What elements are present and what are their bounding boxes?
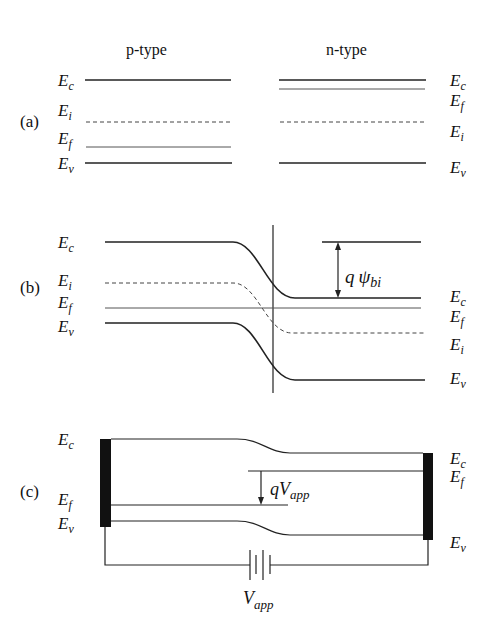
battery-label: Vapp [243, 588, 274, 612]
battery-icon [250, 550, 270, 580]
panel-b: (b) qψbi Ec Ei Ef Ev Ec Ef Ei Ev [20, 225, 466, 393]
label-b-left-ec: Ec [57, 233, 74, 255]
arrow-head-up [335, 242, 341, 250]
arrow-head-down [335, 290, 341, 298]
label-b-right-ef: Ef [449, 307, 465, 329]
builtin-potential-label: qψbi [345, 266, 381, 290]
b-valence-band [105, 323, 425, 380]
c-valence-band [111, 521, 423, 535]
label-c-right-ev: Ev [449, 533, 466, 555]
label-p-ei: Ei [57, 101, 72, 123]
label-p-ec: Ec [57, 71, 74, 93]
panel-a-label: (a) [20, 112, 39, 131]
label-n-ev: Ev [449, 158, 466, 180]
panel-b-label: (b) [20, 278, 40, 297]
label-b-right-ec: Ec [449, 287, 466, 309]
panel-c-label: (c) [20, 482, 39, 501]
left-metal-contact [100, 439, 111, 527]
circuit-wire-right [270, 540, 428, 565]
label-n-ei: Ei [449, 122, 464, 144]
c-conduction-band [111, 439, 423, 453]
arrow-head-down [258, 497, 264, 505]
label-b-left-ev: Ev [57, 317, 74, 339]
panel-a: p-type n-type (a) Ec Ei Ef Ev Ec Ef Ei E… [20, 41, 466, 180]
label-b-left-ef: Ef [57, 293, 73, 315]
circuit-wire-left [105, 527, 250, 565]
n-type-header: n-type [326, 41, 367, 59]
label-b-right-ev: Ev [449, 369, 466, 391]
label-c-left-ev: Ev [57, 514, 74, 536]
label-p-ef: Ef [57, 129, 73, 151]
label-p-ev: Ev [57, 154, 74, 176]
label-c-left-ef: Ef [57, 490, 73, 512]
label-b-left-ei: Ei [57, 271, 72, 293]
panel-c: (c) qVapp Vapp Ec Ef Ev Ec [20, 430, 466, 612]
applied-voltage-label: qVapp [270, 479, 310, 502]
label-n-ec: Ec [449, 71, 466, 93]
p-type-header: p-type [126, 41, 167, 59]
label-b-right-ei: Ei [449, 335, 464, 357]
right-metal-contact [423, 453, 433, 540]
pn-junction-band-diagram: p-type n-type (a) Ec Ei Ef Ev Ec Ef Ei E… [0, 0, 494, 640]
label-n-ef: Ef [449, 91, 465, 113]
label-c-left-ec: Ec [57, 430, 74, 452]
